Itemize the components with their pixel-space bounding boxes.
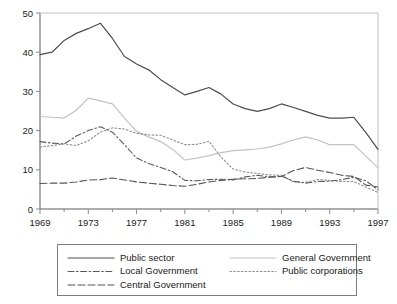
legend-items: Public sectorGeneral GovernmentLocal Gov… — [68, 252, 371, 290]
legend-label-public-sector: Public sector — [120, 252, 174, 263]
x-tick-labels: 19691973197719811985198919931997 — [29, 217, 388, 228]
x-tick-label: 1989 — [271, 217, 292, 228]
y-tick-label: 50 — [22, 8, 33, 19]
y-tick-label: 10 — [22, 164, 33, 175]
series-line-general-government — [40, 98, 378, 168]
legend-label-public-corporations: Public corporations — [282, 265, 363, 276]
x-tick-label: 1997 — [367, 217, 388, 228]
y-tick-labels: 01020304050 — [22, 8, 33, 215]
legend: Public sectorGeneral GovernmentLocal Gov… — [58, 245, 372, 296]
y-tick-label: 40 — [22, 47, 33, 58]
x-tick-label: 1981 — [174, 217, 195, 228]
x-tick-label: 1969 — [29, 217, 50, 228]
series-line-public-corporations — [40, 128, 378, 193]
y-tick-label: 20 — [22, 125, 33, 136]
x-tick-label: 1993 — [319, 217, 340, 228]
y-tick-marks — [36, 13, 40, 209]
legend-label-central-government: Central Government — [120, 279, 206, 290]
x-tick-label: 1985 — [223, 217, 244, 228]
x-tick-marks — [40, 209, 378, 214]
legend-label-general-government: General Government — [282, 252, 371, 263]
x-tick-label: 1973 — [78, 217, 99, 228]
series-line-public-sector — [40, 23, 378, 149]
legend-label-local-government: Local Government — [120, 265, 198, 276]
y-tick-label: 0 — [28, 204, 33, 215]
chart-container: 01020304050 1969197319771981198519891993… — [0, 0, 397, 304]
data-series-group — [40, 23, 378, 192]
x-tick-label: 1977 — [126, 217, 147, 228]
line-chart: 01020304050 1969197319771981198519891993… — [0, 0, 397, 304]
y-tick-label: 30 — [22, 86, 33, 97]
series-line-central-government — [40, 167, 378, 187]
